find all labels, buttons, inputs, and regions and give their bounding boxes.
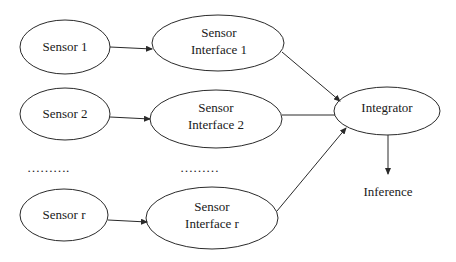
- sensors-ellipsis: ……….: [27, 160, 69, 175]
- node-sensor-interface-r: Sensor Interface r: [146, 187, 278, 249]
- sensor-1-label: Sensor 1: [42, 39, 87, 54]
- edge-sensor-1-to-interface-1: [110, 47, 152, 49]
- interfaces-ellipsis: ………: [180, 160, 219, 175]
- sensor-r-label: Sensor r: [43, 207, 87, 222]
- interface-1-line2: Interface 1: [191, 42, 247, 57]
- interface-r-line1: Sensor: [194, 199, 230, 214]
- node-sensor-2: Sensor 2: [20, 88, 110, 140]
- node-sensor-interface-2: Sensor Interface 2: [150, 90, 282, 148]
- interface-2-line2: Interface 2: [188, 117, 244, 132]
- edge-interface-r-to-integrator: [277, 128, 346, 211]
- sensor-fusion-diagram: Sensor 1 Sensor Interface 1 Sensor 2 Sen…: [0, 0, 456, 262]
- node-sensor-interface-1: Sensor Interface 1: [152, 15, 284, 71]
- node-sensor-1: Sensor 1: [20, 20, 110, 74]
- edge-interface-1-to-integrator: [282, 52, 340, 101]
- edge-sensor-r-to-interface-r: [108, 220, 147, 222]
- inference-label: Inference: [363, 184, 412, 199]
- interface-2-line1: Sensor: [198, 100, 234, 115]
- integrator-label: Integrator: [361, 100, 413, 115]
- node-sensor-r: Sensor r: [20, 189, 108, 241]
- interface-1-line1: Sensor: [201, 25, 237, 40]
- edge-sensor-2-to-interface-2: [110, 117, 150, 119]
- node-integrator: Integrator: [334, 87, 440, 135]
- interface-r-line2: Interface r: [185, 216, 239, 231]
- sensor-2-label: Sensor 2: [42, 106, 87, 121]
